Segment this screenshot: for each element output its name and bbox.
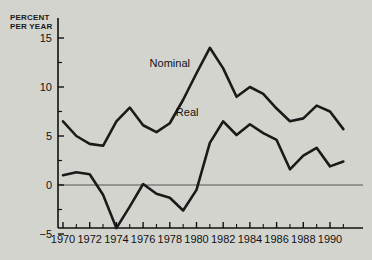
series-annotation-nominal: Nominal [150,57,190,69]
x-axis-tick-label: 1984 [238,233,262,245]
y-axis-tick-label: 0 [20,179,52,191]
series-line-real [63,121,343,228]
x-axis-tick-label: 1978 [158,233,182,245]
x-axis-tick-label: 1974 [104,233,128,245]
y-axis-tick-label: −5 [20,228,52,240]
series-annotation-real: Real [176,106,199,118]
x-axis-tick-label: 1972 [77,233,101,245]
x-axis-tick-label: 1990 [318,233,342,245]
chart-plot-area [0,0,372,260]
x-axis-tick-label: 1988 [291,233,315,245]
y-axis-tick-label: 5 [20,130,52,142]
x-axis-tick-label: 1982 [211,233,235,245]
y-axis-tick-label: 10 [20,81,52,93]
x-axis-tick-label: 1980 [184,233,208,245]
x-axis-tick-label: 1986 [264,233,288,245]
chart-figure: PERCENT PER YEAR −5051015197019721974197… [0,0,372,260]
series-line-nominal [63,48,343,146]
x-axis-tick-label: 1970 [51,233,75,245]
y-axis-tick-label: 15 [20,32,52,44]
x-axis-tick-label: 1976 [131,233,155,245]
